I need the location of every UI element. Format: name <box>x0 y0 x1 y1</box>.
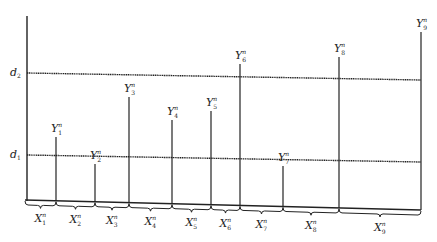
threshold-line-d2 <box>27 73 421 80</box>
peak-label-y5: Yn5 <box>206 95 217 110</box>
brace-x4 <box>129 204 172 212</box>
interval-label-x9: Xn9 <box>373 220 386 235</box>
peak-lines: Yn1Yn2Yn3Yn4Yn5Yn6Yn7Yn8Yn9 <box>51 16 427 210</box>
peak-label-y4: Yn4 <box>167 104 178 119</box>
threshold-line-d1 <box>27 155 421 162</box>
brace-x7 <box>240 206 283 214</box>
threshold-label-d1: d1 <box>10 148 21 161</box>
interval-label-x4: Xn4 <box>144 214 157 229</box>
peak-label-y8: Yn8 <box>334 41 345 56</box>
peak-label-y6: Yn6 <box>235 48 246 63</box>
segmentation-diagram: d2d1 Yn1Yn2Yn3Yn4Yn5Yn6Yn7Yn8Yn9 Xn1Xn2X… <box>0 0 437 242</box>
threshold-lines: d2d1 <box>10 66 421 162</box>
peak-label-y3: Yn3 <box>124 81 135 96</box>
interval-label-x5: Xn5 <box>185 215 198 230</box>
peak-label-y9: Yn9 <box>416 16 427 31</box>
interval-label-x2: Xn2 <box>69 212 82 227</box>
brace-x2 <box>56 202 95 209</box>
interval-label-x6: Xn6 <box>219 216 232 231</box>
peak-label-y7: Yn7 <box>278 150 289 165</box>
baseline-line <box>25 200 421 210</box>
brace-x8 <box>283 208 339 216</box>
brace-x6 <box>211 206 240 213</box>
interval-label-x1: Xn1 <box>34 211 47 226</box>
peak-label-y1: Yn1 <box>51 121 62 136</box>
peak-label-y2: Yn2 <box>90 148 101 163</box>
brace-x3 <box>95 203 129 210</box>
brace-x1 <box>25 201 56 208</box>
threshold-label-d2: d2 <box>10 66 21 79</box>
interval-braces: Xn1Xn2Xn3Xn4Xn5Xn6Xn7Xn8Xn9 <box>25 201 421 235</box>
brace-x5 <box>172 205 211 212</box>
interval-label-x3: Xn3 <box>105 213 118 228</box>
interval-label-x8: Xn8 <box>304 218 317 233</box>
interval-label-x7: Xn7 <box>255 217 268 232</box>
baseline <box>25 200 421 210</box>
